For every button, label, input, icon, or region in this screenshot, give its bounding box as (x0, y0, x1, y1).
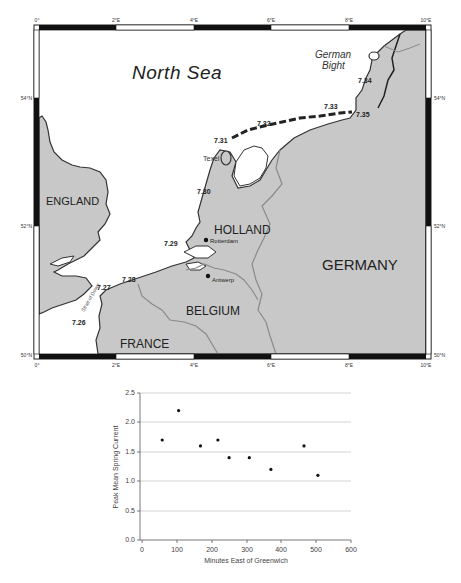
data-point (228, 456, 231, 459)
top-lon-6e: 6°E (267, 17, 276, 23)
top-lon-0: 0° (35, 17, 40, 23)
y-tick-2-5: 2.5 (125, 389, 135, 396)
frame-left-scale (34, 30, 39, 354)
top-lon-2e: 2°E (112, 17, 121, 23)
data-point (316, 474, 319, 477)
belgium-label: BELGIUM (186, 304, 240, 318)
rotterdam-label: Rotterdam (210, 238, 238, 244)
bottom-lon-10e: 10°E (421, 362, 433, 368)
right-lat-labels: 54°N 52°N 50°N (434, 95, 446, 358)
x-tick-300: 300 (241, 546, 253, 553)
data-point (269, 468, 272, 471)
france-label: FRANCE (120, 337, 169, 351)
x-tick-400: 400 (275, 546, 287, 553)
station-7-30: 7.30 (197, 188, 211, 195)
bottom-lon-0: 0° (35, 362, 40, 368)
data-points (161, 409, 320, 477)
x-tick-500: 500 (310, 546, 322, 553)
station-7-33: 7.33 (324, 103, 338, 110)
y-tick-1-5: 1.5 (125, 448, 135, 455)
antwerp-marker (206, 274, 210, 278)
x-ticks (142, 540, 351, 543)
frisian-island (369, 52, 379, 60)
frame-right-scale (426, 30, 431, 354)
station-7-26: 7.26 (72, 319, 86, 326)
data-point (302, 444, 305, 447)
frame-bottom-scale (39, 354, 426, 359)
bottom-lon-8e: 8°E (345, 362, 354, 368)
frame-top-scale (39, 25, 426, 30)
station-7-29: 7.29 (164, 240, 178, 247)
y-axis-label: Peak Mean Spring Current (112, 426, 120, 509)
station-7-31: 7.31 (214, 137, 228, 144)
german-bight-label-2: Bight (322, 60, 346, 71)
top-lon-8e: 8°E (345, 17, 354, 23)
station-7-32: 7.32 (257, 120, 271, 127)
x-tick-600: 600 (345, 546, 357, 553)
data-point (177, 409, 180, 412)
antwerp-label: Antwerp (212, 277, 235, 283)
bottom-lon-6e: 6°E (267, 362, 276, 368)
data-point (216, 438, 219, 441)
north-sea-label: North Sea (132, 62, 222, 83)
x-tick-200: 200 (206, 546, 218, 553)
german-bight-label-1: German (315, 49, 352, 60)
y-tick-0-0: 0.0 (125, 536, 135, 543)
x-tick-100: 100 (171, 546, 183, 553)
right-lat-54n: 54°N (434, 95, 446, 101)
data-point (248, 456, 251, 459)
x-tick-labels: 0 100 200 300 400 500 600 (140, 546, 357, 553)
rotterdam-marker (204, 238, 208, 242)
bottom-lon-2e: 2°E (112, 362, 121, 368)
left-lat-labels: 54°N 52°N 50°N (21, 95, 33, 358)
right-lat-52n: 52°N (434, 223, 446, 229)
right-lat-50n: 50°N (434, 352, 446, 358)
map-north-sea: Rotterdam Antwerp Texel North Sea German… (0, 0, 461, 375)
scatter-chart: 0.0 0.5 1.0 1.5 2.0 2.5 0 100 200 300 40… (0, 375, 461, 583)
data-point (199, 444, 202, 447)
grid-lines (140, 393, 351, 511)
left-lat-52n: 52°N (21, 223, 33, 229)
left-lat-50n: 50°N (21, 352, 33, 358)
england-label: ENGLAND (46, 195, 99, 207)
station-7-34: 7.34 (358, 77, 372, 84)
top-lon-4e: 4°E (190, 17, 199, 23)
germany-label: GERMANY (322, 256, 398, 273)
data-point (161, 438, 164, 441)
y-ticks (137, 393, 140, 540)
y-tick-0-5: 0.5 (125, 507, 135, 514)
x-axis-label: Minutes East of Greenwich (204, 557, 288, 564)
top-lon-labels: 0° 2°E 4°E 6°E 8°E 10°E (35, 17, 432, 23)
top-lon-10e: 10°E (421, 17, 433, 23)
left-lat-54n: 54°N (21, 95, 33, 101)
holland-label: HOLLAND (214, 223, 271, 237)
y-tick-labels: 0.0 0.5 1.0 1.5 2.0 2.5 (125, 389, 135, 543)
station-7-27: 7.27 (97, 284, 111, 291)
texel-island (221, 151, 231, 165)
station-7-28: 7.28 (122, 276, 136, 283)
station-7-35: 7.35 (356, 111, 370, 118)
bottom-lon-4e: 4°E (190, 362, 199, 368)
y-tick-2-0: 2.0 (125, 418, 135, 425)
bottom-lon-labels: 0° 2°E 4°E 6°E 8°E 10°E (35, 362, 432, 368)
texel-label: Texel (203, 155, 220, 162)
y-tick-1-0: 1.0 (125, 477, 135, 484)
x-tick-0: 0 (140, 546, 144, 553)
